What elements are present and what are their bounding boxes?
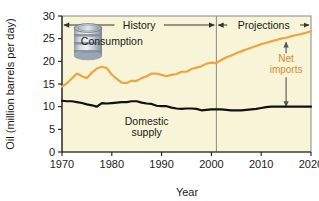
x-axis-title: Year — [176, 186, 199, 198]
net-imports-label-line1: Net — [278, 53, 294, 64]
x-tick-label: 1970 — [50, 158, 74, 170]
projections-span-annotation: Projections — [218, 18, 309, 32]
y-tick-label: 0 — [49, 146, 55, 158]
x-tick-label: 1980 — [100, 158, 124, 170]
x-tick-label: 2000 — [199, 158, 223, 170]
history-label: History — [123, 19, 156, 31]
chart-canvas: 051015202530 197019801990200020102020 Hi… — [0, 0, 319, 201]
projections-label: Projections — [238, 19, 290, 31]
x-tick-label: 2020 — [299, 158, 319, 170]
x-tick-label: 2010 — [249, 158, 273, 170]
consumption-series-label: Consumption — [81, 35, 143, 47]
y-tick-label: 30 — [43, 10, 55, 22]
net-imports-label-line2: imports — [270, 64, 303, 75]
x-axis-ticks: 197019801990200020102020 — [50, 152, 319, 170]
y-tick-label: 15 — [43, 78, 55, 90]
y-axis-ticks: 051015202530 — [43, 10, 62, 158]
oil-supply-consumption-chart: 051015202530 197019801990200020102020 Hi… — [0, 0, 319, 201]
x-tick-label: 1990 — [149, 158, 173, 170]
y-tick-label: 20 — [43, 55, 55, 67]
y-tick-label: 5 — [49, 123, 55, 135]
y-axis-title: Oil (million barrels per day) — [4, 18, 16, 149]
domestic-supply-series-label-line2: supply — [131, 126, 162, 138]
y-tick-label: 25 — [43, 32, 55, 44]
y-tick-label: 10 — [43, 100, 55, 112]
